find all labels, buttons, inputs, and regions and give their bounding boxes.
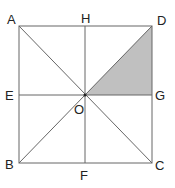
- label-h: H: [81, 11, 90, 26]
- label-f: F: [80, 168, 88, 183]
- label-d: D: [157, 13, 166, 28]
- center-point-o: [84, 94, 87, 97]
- label-a: A: [7, 12, 16, 27]
- label-g: G: [155, 88, 165, 103]
- label-c: C: [155, 158, 164, 173]
- label-o: O: [74, 102, 84, 117]
- geometry-diagram: A H D E O G B F C: [0, 0, 175, 188]
- label-e: E: [5, 88, 14, 103]
- label-b: B: [5, 157, 14, 172]
